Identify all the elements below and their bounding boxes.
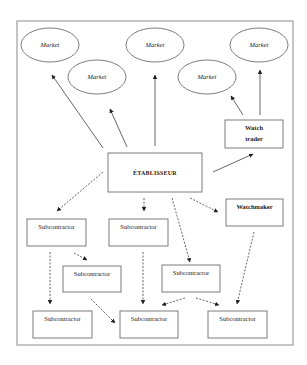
dashed-arrow-etablisseur-to-subcontractor-d <box>172 198 190 262</box>
node-layer: MarketMarketMarketMarketMarketWatchtrade… <box>21 28 288 338</box>
solid-arrow-etablisseur-to-market-2 <box>110 109 127 147</box>
subcontractor-d-label: Subcontractor <box>173 269 210 276</box>
dashed-arrow-subcontractor-d-to-subcontractor-f <box>162 298 185 305</box>
market-1-node: Market <box>21 28 79 62</box>
subcontractor-a-node: Subcontractor <box>27 219 86 246</box>
dashed-arrow-subcontractor-d-to-subcontractor-g <box>196 298 219 305</box>
subcontractor-c-node: Subcontractor <box>63 266 121 292</box>
market-4-label: Market <box>197 73 217 80</box>
watchmaker-node: Watchmaker <box>226 199 283 226</box>
market-3-node: Market <box>126 28 184 62</box>
subcontractor-b-node: Subcontractor <box>109 219 168 246</box>
subcontractor-e-node: Subcontractor <box>33 311 92 338</box>
market-5-node: Market <box>230 28 288 62</box>
supply-chain-diagram: MarketMarketMarketMarketMarketWatchtrade… <box>0 0 307 365</box>
market-3-label: Market <box>145 41 165 48</box>
watch-trader-label-line-2: trader <box>245 135 263 142</box>
market-4-node: Market <box>178 60 236 94</box>
market-2-node: Market <box>68 60 126 94</box>
market-1-label: Market <box>40 41 60 48</box>
subcontractor-d-node: Subcontractor <box>162 265 220 292</box>
subcontractor-f-label: Subcontractor <box>131 315 168 322</box>
dashed-arrow-subcontractor-a-to-subcontractor-c <box>74 253 87 260</box>
subcontractor-g-node: Subcontractor <box>208 311 267 338</box>
dashed-arrow-etablisseur-to-subcontractor-a <box>57 172 103 211</box>
watch-trader-label-line-1: Watch <box>245 124 263 131</box>
etablisseur-label: ÉTABLISSEUR <box>133 169 177 176</box>
market-2-label: Market <box>87 73 107 80</box>
dashed-arrow-etablisseur-to-watchmaker <box>190 198 218 212</box>
watch-trader-node: Watchtrader <box>225 120 283 148</box>
etablisseur-node: ÉTABLISSEUR <box>108 153 202 192</box>
watchmaker-label: Watchmaker <box>236 203 272 210</box>
subcontractor-a-label: Subcontractor <box>38 223 75 230</box>
subcontractor-f-node: Subcontractor <box>120 311 178 338</box>
market-5-label: Market <box>249 41 269 48</box>
subcontractor-g-label: Subcontractor <box>219 315 256 322</box>
subcontractor-b-label: Subcontractor <box>120 223 157 230</box>
solid-arrow-etablisseur-to-watch-trader <box>213 154 253 172</box>
subcontractor-e-label: Subcontractor <box>44 315 81 322</box>
dashed-arrow-subcontractor-c-to-subcontractor-f <box>91 299 115 323</box>
subcontractor-c-label: Subcontractor <box>74 270 111 277</box>
solid-arrow-watch-trader-to-market-4 <box>231 96 243 115</box>
dashed-arrow-watchmaker-to-subcontractor-g <box>237 232 254 304</box>
